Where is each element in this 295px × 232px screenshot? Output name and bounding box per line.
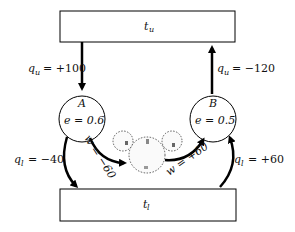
svg-text:= −40: = −40 <box>28 153 64 166</box>
ql-a-label: q l = −40 <box>14 153 64 168</box>
svg-text:q: q <box>28 62 35 75</box>
svg-text:= +60: = +60 <box>248 153 284 166</box>
qu-b-label: q u = −120 <box>217 62 275 77</box>
svg-text:l: l <box>241 159 244 168</box>
engine-a: A e = 0.6 <box>59 96 105 142</box>
svg-text:= +100: = +100 <box>43 62 86 75</box>
ql-b-label: q l = +60 <box>234 153 284 168</box>
svg-text:u: u <box>35 68 40 77</box>
ql-a-arrow <box>64 137 76 186</box>
upper-reservoir: t u <box>60 11 235 42</box>
svg-text:q: q <box>14 153 21 166</box>
lower-reservoir: t l <box>60 189 236 221</box>
qu-a-label: q u = +100 <box>28 62 86 77</box>
svg-text:A: A <box>77 97 86 110</box>
diagram: t u t l A e = 0.6 B e = 0.5 q <box>0 0 295 232</box>
svg-text:u: u <box>224 68 229 77</box>
svg-text:q: q <box>234 153 241 166</box>
svg-text:l: l <box>147 203 150 212</box>
ql-b-arrow <box>220 138 233 187</box>
engine-b: B e = 0.5 <box>190 96 236 142</box>
svg-text:q: q <box>217 62 224 75</box>
svg-text:B: B <box>208 97 217 110</box>
svg-text:= −120: = −120 <box>232 62 275 75</box>
svg-text:u: u <box>149 25 154 34</box>
engine-b-efficiency: e = 0.5 <box>195 114 235 127</box>
w-a-label: w = −60 <box>81 133 118 181</box>
engine-a-efficiency: e = 0.6 <box>64 114 104 127</box>
svg-text:l: l <box>21 159 24 168</box>
